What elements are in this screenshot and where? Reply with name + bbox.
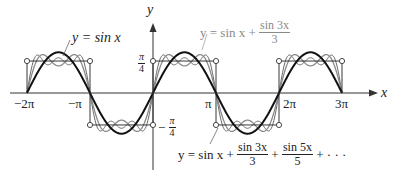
open-circle-icon (276, 58, 281, 63)
label-eq3: y = sin x + sin 3x3 + sin 5x5 + · · · (178, 141, 346, 167)
y-axis-arrow-icon (150, 23, 157, 32)
label-eq2: y = sin x + sin 3x3 (200, 19, 290, 45)
tick-label-3pi: 3π (335, 97, 348, 110)
open-circle-icon (276, 122, 281, 127)
tick-label-neg2pi: −2π (14, 97, 34, 110)
open-circle-icon (87, 58, 92, 63)
open-circle-icon (87, 122, 92, 127)
tick-label-2pi: 2π (283, 97, 296, 110)
label-sinx: y = sin x (72, 31, 121, 45)
open-circle-icon (339, 58, 344, 63)
y-axis-label: y (147, 3, 153, 17)
open-circle-icon (213, 58, 218, 63)
open-circle-icon (150, 58, 155, 63)
x-axis-arrow-icon (369, 90, 378, 97)
open-circle-icon (24, 58, 29, 63)
leader-sinx (63, 40, 70, 56)
tick-label-pi-over-4: π4 (138, 52, 145, 74)
tick-label-neg-pi-over-4: − π4 (158, 116, 176, 138)
open-circle-icon (213, 122, 218, 127)
tick-label-negpi: −π (68, 97, 82, 110)
x-axis-label: x (381, 86, 387, 100)
open-circle-icon (150, 122, 155, 127)
tick-label-pi: π (205, 97, 212, 110)
